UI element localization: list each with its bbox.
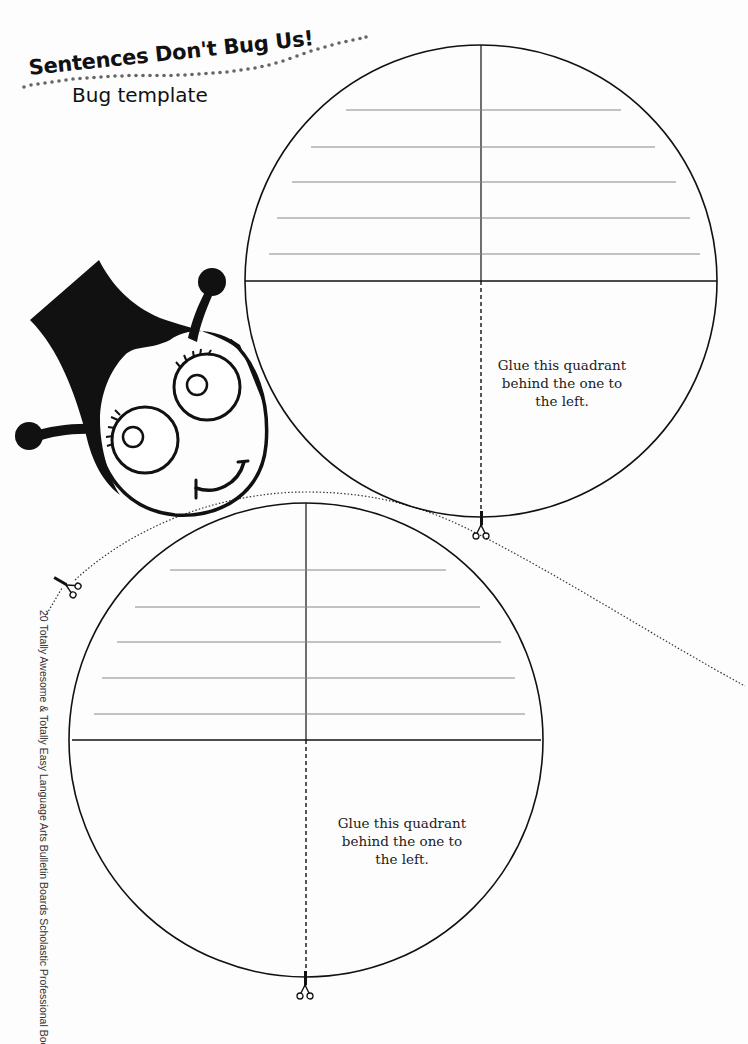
page-subtitle: Bug template <box>72 83 208 107</box>
scissors-icon <box>297 971 313 999</box>
page-credit: 20 Totally Awesome & Totally Easy Langua… <box>38 610 50 1010</box>
scissors-icon <box>50 571 82 599</box>
scissors-icon <box>473 511 489 539</box>
top-circle <box>245 45 717 517</box>
template-drawing <box>0 0 748 1044</box>
bug-head-illustration <box>15 260 267 515</box>
worksheet-page: Sentences Don't Bug Us! Bug template Glu… <box>0 0 748 1044</box>
bottom-circle <box>69 503 543 977</box>
top-circle-instruction: Glue this quadrant behind the one to the… <box>482 356 642 410</box>
bottom-circle-instruction: Glue this quadrant behind the one to the… <box>322 814 482 868</box>
